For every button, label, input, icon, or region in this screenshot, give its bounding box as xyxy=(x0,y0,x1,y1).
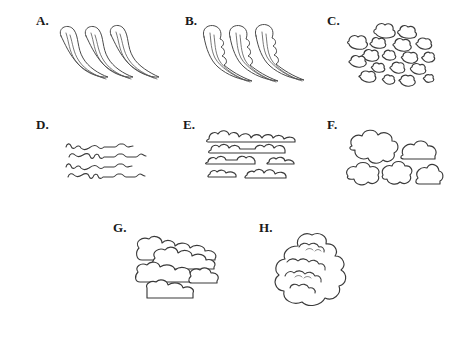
cirrus-uncinus-tufted-shape xyxy=(200,24,310,86)
panel-c-label: C. xyxy=(327,14,340,27)
cirrostratus-thin-wavy-lines-shape xyxy=(65,140,149,186)
altocumulus-bands-shape xyxy=(205,126,311,188)
cumulonimbus-tower-shape xyxy=(268,230,354,312)
panel-g-label: G. xyxy=(113,221,127,234)
panel-d-label: D. xyxy=(36,118,49,131)
panel-a-label: A. xyxy=(36,14,49,27)
cirrus-wisps-shape xyxy=(55,22,165,84)
cloud-types-figure: A. B. xyxy=(0,0,449,342)
panel-b-label: B. xyxy=(185,14,197,27)
panel-f-label: F. xyxy=(327,118,337,131)
panel-e-label: E. xyxy=(183,118,195,131)
stratocumulus-layered-decks-shape xyxy=(133,236,229,308)
cumulus-humilis-group-shape xyxy=(342,128,440,194)
cirrocumulus-granules-shape xyxy=(340,20,440,92)
